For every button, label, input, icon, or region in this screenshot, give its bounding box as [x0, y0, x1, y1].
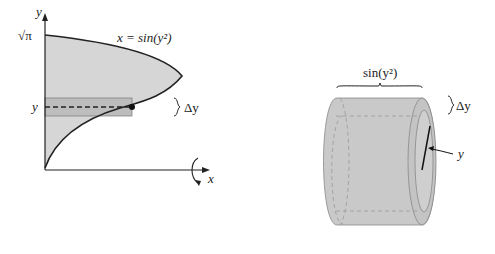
x-axis-label: x [207, 171, 214, 186]
delta-brace-icon [174, 98, 180, 116]
radius-label: y [456, 146, 464, 161]
delta-y-label: Δy [184, 100, 199, 115]
delta-brace-right-icon [448, 96, 454, 114]
width-brace-icon [337, 83, 422, 88]
y-axis-label: y [34, 4, 42, 19]
region-plot: y x √π y x = sin(y²) Δy [18, 4, 214, 186]
delta-y-right-label: Δy [456, 98, 471, 113]
rotation-arrowhead-icon [195, 180, 201, 186]
curve-label: x = sin(y²) [116, 30, 172, 45]
width-label: sin(y²) [363, 65, 397, 80]
y-top-tick-label: √π [18, 28, 32, 43]
y-slice-tick-label: y [30, 99, 38, 114]
diagram-canvas: y x √π y x = sin(y²) Δy sin(y²) y Δy [0, 0, 495, 254]
y-axis-arrow-icon [42, 13, 48, 21]
curve-point [129, 104, 135, 110]
cylindrical-shell: sin(y²) y Δy [324, 65, 472, 225]
